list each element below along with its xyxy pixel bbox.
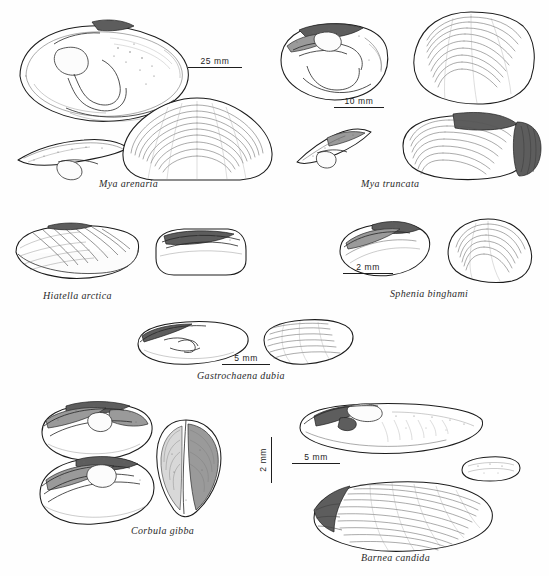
figure-corbula-left-valve — [36, 450, 158, 528]
figure-hiatella-exterior — [10, 218, 142, 284]
species-group-gastrochaena-dubia: 5 mm Gastrochaena dubia — [120, 312, 360, 390]
figure-mya-truncata-exterior — [407, 8, 539, 108]
figure-hiatella-interior — [150, 224, 250, 280]
species-group-mya-truncata: 10 mm Mya truncata — [265, 0, 549, 200]
illustration-plate: 25 mm Mya arenaria — [0, 0, 549, 576]
scale-bar-sphenia-binghami: 2 mm — [343, 262, 393, 274]
figure-mya-truncata-periostracum — [393, 108, 545, 186]
scale-bar-rule — [334, 107, 384, 108]
species-label-corbula-gibba: Corbula gibba — [131, 525, 194, 536]
species-group-sphenia-binghami: 2 mm Sphenia binghami — [320, 205, 549, 310]
scale-bar-label: 25 mm — [188, 56, 242, 67]
species-group-hiatella-arctica: 2 mm Hiatella arctica — [0, 205, 295, 310]
species-label-barnea-candida: Barnea candida — [361, 552, 430, 563]
scale-bar-rule — [188, 67, 242, 68]
scale-bar-rule — [222, 364, 270, 365]
scale-bar-mya-truncata: 10 mm — [334, 96, 384, 108]
scale-bar-label: 10 mm — [334, 96, 384, 107]
species-label-sphenia-binghami: Sphenia binghami — [390, 288, 468, 299]
figure-barnea-interior — [296, 398, 486, 458]
species-label-mya-arenaria: Mya arenaria — [99, 178, 158, 189]
scale-bar-label: 5 mm — [222, 353, 270, 364]
figure-mya-arenaria-hinge-detail — [14, 130, 134, 182]
scale-bar-mya-arenaria: 25 mm — [188, 56, 242, 68]
scale-bar-rule — [292, 463, 340, 464]
species-label-mya-truncata: Mya truncata — [361, 178, 419, 189]
scale-bar-rule — [271, 437, 272, 483]
species-label-gastrochaena-dubia: Gastrochaena dubia — [197, 370, 285, 381]
species-group-barnea-candida: 5 mm Barnea candida — [280, 392, 549, 576]
figure-barnea-exterior — [300, 476, 496, 556]
scale-bar-label: 2 mm — [343, 262, 393, 273]
scale-bar-label: 5 mm — [292, 452, 340, 463]
scale-bar-rule — [343, 273, 393, 274]
figure-corbula-dorsal-view — [148, 414, 226, 522]
species-label-hiatella-arctica: Hiatella arctica — [43, 290, 112, 301]
figure-gastrochaena-exterior — [260, 316, 356, 368]
figure-mya-truncata-hinge-detail — [293, 124, 383, 172]
scale-bar-barnea-candida: 5 mm — [292, 452, 340, 464]
species-group-corbula-gibba: 5 mm Corbula gibba — [0, 392, 270, 576]
figure-mya-truncata-interior — [273, 16, 393, 106]
species-group-mya-arenaria: 25 mm Mya arenaria — [0, 0, 275, 200]
figure-mya-arenaria-exterior — [120, 95, 275, 183]
figure-sphenia-exterior — [442, 215, 536, 285]
scale-bar-gastrochaena-dubia: 5 mm — [222, 353, 270, 365]
